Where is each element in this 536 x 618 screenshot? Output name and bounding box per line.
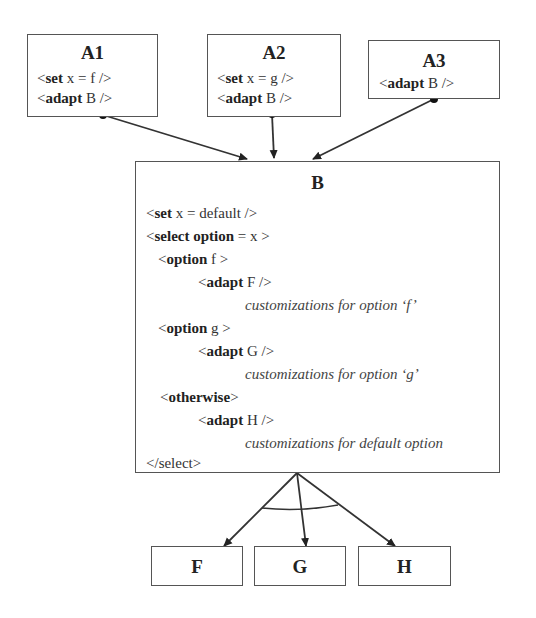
b-line-close-select: </select> (146, 455, 201, 472)
b-line-set-default: <set x = default /> (146, 205, 257, 222)
box-a3-title: A3 (369, 50, 499, 72)
box-a1-title: A1 (28, 42, 157, 64)
box-a2-title: A2 (208, 42, 340, 64)
b-comment-option-g: customizations for option ‘g’ (245, 366, 419, 383)
box-a2: A2 <set x = g /> <adapt B /> (207, 34, 341, 117)
box-f-title: F (152, 556, 242, 578)
box-a1: A1 <set x = f /> <adapt B /> (27, 34, 158, 117)
edge-a2-to-b (268, 110, 276, 158)
b-line-select-option: <select option = x > (146, 228, 270, 245)
box-g-title: G (255, 556, 345, 578)
b-comment-default-option: customizations for default option (245, 435, 443, 452)
box-a3-line-1: <adapt B /> (379, 75, 454, 92)
box-h-title: H (359, 556, 450, 578)
b-line-adapt-f: <adapt F /> (198, 274, 272, 291)
box-a1-line-1: <set x = f /> (37, 70, 112, 87)
b-line-option-g: <option g > (158, 320, 231, 337)
b-line-otherwise: <otherwise> (160, 389, 239, 406)
b-line-adapt-h: <adapt H /> (198, 412, 274, 429)
alternative-arc (262, 505, 338, 509)
box-a2-line-2: <adapt B /> (217, 90, 292, 107)
box-b: B <set x = default /> <select option = x… (135, 161, 500, 473)
box-g: G (254, 546, 346, 586)
box-a3: A3 <adapt B /> (368, 40, 500, 99)
edge-b-to-h (297, 473, 395, 546)
box-f: F (151, 546, 243, 586)
box-h: H (358, 546, 451, 586)
b-line-adapt-g: <adapt G /> (198, 343, 274, 360)
box-a1-line-2: <adapt B /> (37, 90, 112, 107)
box-b-title: B (136, 172, 499, 194)
edge-a1-to-b (99, 111, 247, 159)
b-line-option-f: <option f > (158, 251, 228, 268)
box-a2-line-1: <set x = g /> (217, 70, 294, 87)
b-comment-option-f: customizations for option ‘f’ (245, 297, 417, 314)
